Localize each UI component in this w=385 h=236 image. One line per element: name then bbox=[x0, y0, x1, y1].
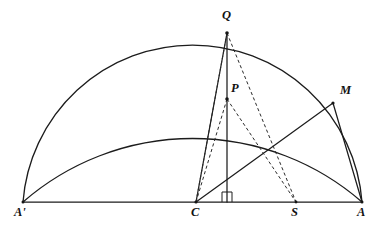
geometry-figure: A' C S A Q P M bbox=[0, 0, 385, 236]
dashed-segment-p-to-s bbox=[227, 99, 296, 202]
point-label-m: M bbox=[340, 84, 351, 97]
point-label-a-prime: A' bbox=[14, 206, 26, 219]
geometry-canvas bbox=[0, 0, 385, 236]
segment-m-to-a bbox=[333, 103, 362, 202]
segment-c-to-m bbox=[196, 103, 333, 202]
vertex-dot-m bbox=[331, 101, 334, 104]
point-label-q: Q bbox=[222, 9, 231, 22]
vertex-dot-a-prime bbox=[22, 201, 25, 204]
vertex-dot-s bbox=[295, 201, 298, 204]
point-label-p: P bbox=[231, 82, 239, 95]
vertex-dot-a bbox=[361, 201, 364, 204]
point-label-s: S bbox=[291, 206, 298, 219]
vertex-dot-q bbox=[225, 31, 229, 35]
vertex-dot-p bbox=[225, 97, 229, 101]
vertex-dot-c bbox=[194, 200, 197, 203]
small-arc bbox=[23, 139, 362, 202]
dashed-segment-q-to-s bbox=[227, 33, 296, 202]
large-semicircle-arc bbox=[23, 45, 362, 202]
point-label-c: C bbox=[191, 206, 199, 219]
point-label-a: A bbox=[357, 206, 365, 219]
